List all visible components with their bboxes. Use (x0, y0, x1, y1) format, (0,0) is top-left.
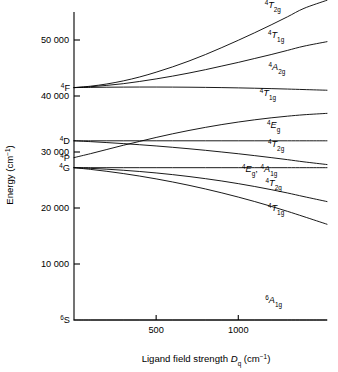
y-axis-title: Energy (cm−1) (4, 145, 16, 205)
energy-curve (74, 168, 327, 225)
free-ion-term-label: 4G (59, 162, 70, 174)
plot-canvas: 50 00040 00030 00020 00010 000 5001000 4… (0, 0, 338, 372)
x-axis-title: Ligand field strength Dq (cm−1) (142, 353, 271, 368)
free-ion-term-label: 6S (60, 314, 70, 326)
curve-term-labels: 4T2g4T1g4A2g4T1g4Eg4T2g4Eg, 4A1g4T2g4T1g… (242, 0, 286, 308)
y-axis-ticks (74, 40, 80, 264)
y-tick-label: 50 000 (41, 35, 69, 45)
energy-level-curves (74, 0, 327, 320)
y-tick-label: 20 000 (41, 203, 69, 213)
energy-curve (74, 0, 327, 87)
y-tick-label: 10 000 (41, 259, 69, 269)
x-tick-label: 500 (148, 325, 163, 335)
energy-curve (74, 141, 327, 165)
x-axis-tick-labels: 5001000 (148, 325, 248, 335)
energy-curve (74, 113, 327, 157)
curve-term-label: 6A1g (265, 293, 282, 308)
curve-term-label: 4Eg (267, 118, 281, 133)
x-axis-ticks (156, 315, 238, 320)
axes-group (74, 12, 327, 320)
curve-term-label: 4A2g (268, 60, 285, 75)
curve-term-label: 4Eg, 4A1g (242, 163, 278, 178)
x-axis-title-group: Ligand field strength Dq (cm−1) (142, 353, 271, 368)
curve-term-label: 4T2g (265, 0, 282, 14)
free-ion-term-label: 4D (60, 135, 71, 147)
energy-curve (74, 42, 327, 88)
curve-term-label: 4T2g (268, 137, 285, 152)
x-tick-label: 1000 (228, 325, 248, 335)
y-axis-title-group: Energy (cm−1) (4, 145, 16, 205)
energy-curve (74, 168, 327, 202)
curve-term-label: 4T1g (268, 202, 285, 217)
axis-spine (74, 12, 327, 320)
energy-level-diagram: 50 00040 00030 00020 00010 000 5001000 4… (0, 0, 338, 372)
energy-curve (74, 87, 327, 90)
curve-term-label: 4T1g (268, 29, 285, 44)
